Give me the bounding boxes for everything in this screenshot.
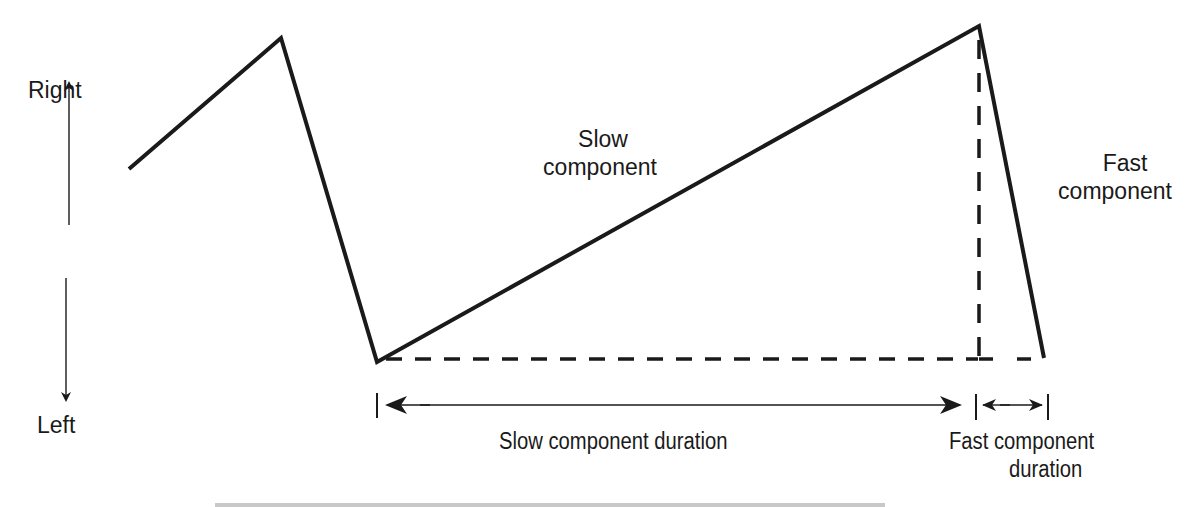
fast-component-label: Fast — [1075, 150, 1175, 176]
slow-duration-label: Slow component duration — [499, 428, 727, 454]
slow-duration-indicator — [377, 393, 960, 418]
direction-arrows — [66, 83, 69, 400]
left-direction-label: Left — [37, 412, 75, 438]
fast-component-label-2: component — [1035, 178, 1195, 204]
fast-duration-label-2: duration — [1009, 456, 1082, 482]
right-direction-label: Right — [28, 77, 82, 103]
slow-component-label-2: component — [520, 154, 680, 180]
fast-duration-label: Fast component — [949, 428, 1094, 454]
caption-cutoff — [215, 503, 885, 507]
slow-component-label: Slow — [548, 126, 658, 152]
fast-duration-indicator — [976, 394, 1048, 420]
waveform-line — [129, 26, 1044, 362]
